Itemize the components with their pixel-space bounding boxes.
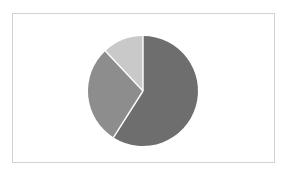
figure-canvas xyxy=(0,0,288,177)
pie-chart-svg xyxy=(0,0,288,177)
pie-chart xyxy=(0,0,288,177)
